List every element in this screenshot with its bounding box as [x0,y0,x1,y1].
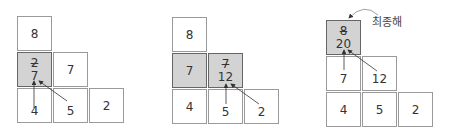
arrow-icon [39,81,67,101]
arrows-overlay [0,0,454,134]
curved-arrow-icon [349,9,378,18]
arrow-icon [231,84,259,104]
arrow-icon [348,50,377,71]
